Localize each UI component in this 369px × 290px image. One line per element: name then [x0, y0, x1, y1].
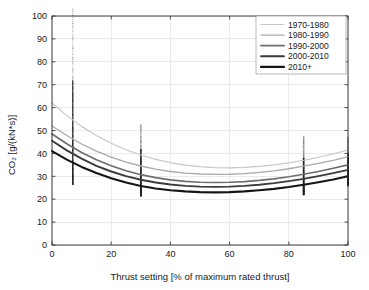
x-tick-label: 100 [340, 249, 355, 259]
scatter-data-point [72, 59, 74, 60]
scatter-data-point [72, 91, 74, 92]
scatter-data-point [303, 136, 305, 137]
scatter-data-point [72, 13, 74, 14]
scatter-data-point [72, 128, 74, 129]
scatter-data-point [72, 103, 74, 104]
legend: 1970-19801980-19901990-20002000-20102010… [256, 16, 346, 74]
scatter-data-point [72, 110, 74, 111]
scatter-data-point [72, 92, 74, 93]
y-tick-label: 100 [32, 11, 47, 21]
y-tick-label: 80 [37, 57, 47, 67]
x-tick-label: 40 [165, 249, 175, 259]
scatter-data-point [72, 100, 74, 101]
scatter-data-point [72, 94, 74, 95]
chart-figure: 0102030405060708090100 020406080100 Thru… [0, 0, 369, 290]
x-tick-label: 0 [49, 249, 54, 259]
scatter-data-point [72, 98, 74, 99]
scatter-data-point [72, 97, 74, 98]
x-tick-label: 80 [284, 249, 294, 259]
scatter-data-point [72, 46, 74, 47]
scatter-data-point [72, 143, 74, 144]
scatter-data-point [72, 33, 74, 34]
scatter-data-point [72, 29, 74, 30]
scatter-data-point [72, 21, 74, 22]
scatter-data-point [72, 144, 74, 145]
scatter-data-point [72, 50, 74, 51]
y-tick-label: 30 [37, 172, 47, 182]
scatter-data-point [72, 25, 74, 26]
scatter-data-point [72, 37, 74, 38]
scatter-data-point [72, 123, 74, 124]
scatter-data-point [72, 127, 74, 128]
scatter-data-point [72, 55, 74, 56]
co2-thrust-plot: 0102030405060708090100 020406080100 Thru… [0, 0, 369, 290]
scatter-data-point [72, 80, 74, 81]
y-tick-label: 90 [37, 34, 47, 44]
scatter-data-point [72, 106, 74, 107]
y-tick-label: 20 [37, 194, 47, 204]
scatter-data-point [72, 23, 74, 24]
scatter-data-point [72, 64, 74, 65]
scatter-data-point [72, 126, 74, 127]
y-tick-label: 60 [37, 103, 47, 113]
scatter-data-point [72, 31, 74, 32]
scatter-data-point [72, 117, 74, 118]
scatter-data-point [72, 83, 74, 84]
y-axis-title: CO₂ [g/(kN*s)] [6, 115, 17, 175]
scatter-data-point [72, 68, 74, 69]
scatter-data-point [72, 108, 74, 109]
scatter-data-point [72, 76, 74, 77]
scatter-data-point [72, 39, 74, 40]
legend-label: 1980-1990 [288, 30, 329, 40]
scatter-data-point [72, 86, 74, 87]
scatter-data-point [72, 78, 74, 79]
scatter-data-point [72, 9, 74, 10]
scatter-data-point [72, 135, 74, 136]
scatter-data-point [72, 75, 74, 76]
scatter-data-point [72, 61, 74, 62]
legend-label: 2000-2010 [288, 51, 329, 61]
scatter-data-point [72, 27, 74, 28]
x-axis-title: Thrust setting [% of maximum rated thrus… [111, 271, 290, 282]
scatter-data-point [72, 48, 74, 49]
scatter-data-point [72, 57, 74, 58]
scatter-data-point [72, 136, 74, 137]
scatter-data-point [72, 132, 74, 133]
scatter-data-point [72, 111, 74, 112]
scatter-data-point [72, 52, 74, 53]
scatter-data-point [72, 115, 74, 116]
x-tick-label: 20 [106, 249, 116, 259]
scatter-data-point [72, 66, 74, 67]
scatter-data-point [72, 107, 74, 108]
scatter-data-point [72, 142, 74, 143]
legend-label: 1990-2000 [288, 41, 329, 51]
scatter-data-point [72, 11, 74, 12]
y-tick-label: 40 [37, 149, 47, 159]
y-tick-label: 50 [37, 126, 47, 136]
x-axis-tick-labels: 020406080100 [49, 249, 355, 259]
y-tick-label: 0 [42, 240, 47, 250]
scatter-data-point [72, 35, 74, 36]
legend-label: 1970-1980 [288, 20, 329, 30]
y-tick-label: 70 [37, 80, 47, 90]
scatter-data-point [72, 41, 74, 42]
scatter-data-point [72, 54, 74, 55]
scatter-data-point [72, 44, 74, 45]
scatter-data-point [72, 17, 74, 18]
scatter-data-point [72, 141, 74, 142]
scatter-data-point [72, 133, 74, 134]
scatter-data-point [140, 124, 142, 125]
scatter-data-point [72, 81, 74, 82]
scatter-data-point [72, 69, 74, 70]
scatter-data-point [72, 42, 74, 43]
scatter-data-point [72, 89, 74, 90]
scatter-data-point [72, 84, 74, 85]
scatter-data-point [72, 134, 74, 135]
legend-label: 2010+ [288, 62, 312, 72]
scatter-data-point [72, 63, 74, 64]
scatter-data-point [72, 124, 74, 125]
scatter-data-point [72, 114, 74, 115]
scatter-data-point [72, 129, 74, 130]
scatter-data-point [72, 122, 74, 123]
scatter-data-point [72, 95, 74, 96]
